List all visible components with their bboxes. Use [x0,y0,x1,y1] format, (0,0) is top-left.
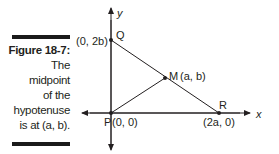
r-label: R [219,99,227,111]
y-axis-label: y [116,7,124,19]
q-label: Q [116,29,125,41]
point-p [109,111,113,115]
m-label: M [169,70,178,82]
r-coords: (2a, 0) [203,116,235,128]
coordinate-diagram: y x Q (0, 2b) M (a, b) R (2a, 0) P (0, 0… [0,0,279,154]
x-axis-label: x [255,108,262,120]
q-coords: (0, 2b) [76,35,108,47]
point-r [217,111,221,115]
segment-pm [111,78,165,113]
p-label: P [104,116,111,128]
point-m [163,76,167,80]
p-coords: (0, 0) [112,116,138,128]
m-coords: (a, b) [180,70,206,82]
point-q [109,38,113,42]
